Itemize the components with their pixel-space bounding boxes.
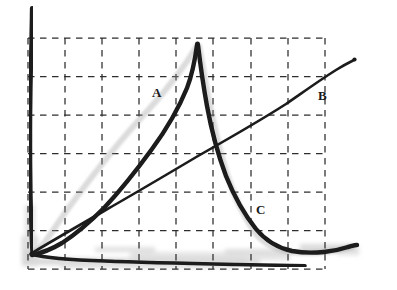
curve-label-a: A bbox=[152, 86, 161, 99]
peak-marker-A bbox=[195, 42, 200, 47]
curve-label-c: C bbox=[256, 203, 265, 216]
curve-label-b: B bbox=[318, 89, 327, 102]
endpoint-marker-B bbox=[352, 57, 356, 61]
chart-svg bbox=[0, 0, 397, 290]
y-axis-line bbox=[30, 8, 32, 254]
figure-canvas: A B C bbox=[0, 0, 397, 290]
